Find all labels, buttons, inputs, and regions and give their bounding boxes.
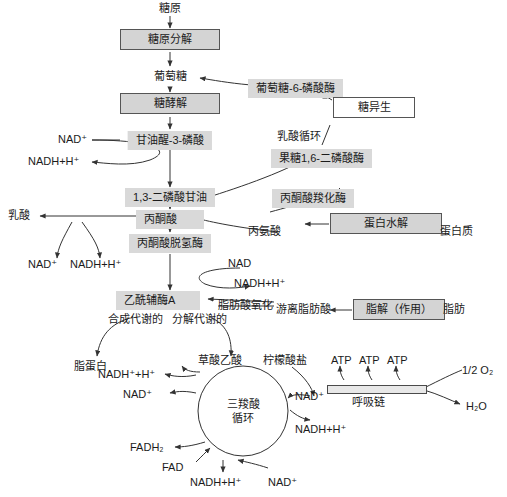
node-glycolysis[interactable]: 糖酵解: [120, 93, 220, 114]
node-citrate: 柠檬酸盐: [263, 354, 307, 367]
cofactor-nad-plus-tca-right: NAD⁺: [295, 390, 324, 403]
tca-cycle-line1: 三羧酸: [227, 397, 260, 411]
node-water: H₂O: [466, 400, 487, 413]
cofactor-nadh-lactate: NADH+H⁺: [70, 258, 121, 271]
label-catabolic: 分解代谢的: [172, 313, 227, 326]
cofactor-nadh-tca-left: NADH⁺+H⁺: [98, 368, 155, 381]
node-glucose-6-phosphatase: 葡萄糖-6-磷酸酶: [248, 79, 343, 98]
node-alanine: 丙氨酸: [248, 225, 281, 238]
node-lipolysis[interactable]: 脂解（作用）: [353, 299, 445, 320]
node-tca-cycle: 三羧酸 循环: [227, 397, 260, 425]
node-bisphosphoglycerate: 1,3-二磷酸甘油: [125, 188, 215, 207]
node-pyruvate-dehydrogenase: 丙酮酸脱氢酶: [129, 234, 211, 253]
atp-3: ATP: [387, 354, 408, 367]
cofactor-nad-pdh: NAD: [228, 257, 251, 270]
node-oxaloacetate: 草酸乙酸: [198, 354, 242, 367]
node-half-oxygen: 1/2 O₂: [462, 364, 493, 377]
cofactor-nadh-glycolysis: NADH+H⁺: [28, 155, 79, 168]
cofactor-fad: FAD: [162, 461, 183, 474]
node-glycogenolysis[interactable]: 糖原分解: [120, 29, 220, 50]
node-pyruvate-carboxylase: 丙酮酸羧化酶: [272, 189, 354, 208]
atp-2: ATP: [359, 354, 380, 367]
cofactor-nadh-tca-right: NADH+H⁺: [295, 423, 346, 436]
cofactor-nad-plus-glycolysis: NAD⁺: [58, 133, 87, 146]
cofactor-nadh-tca-bottom: NADH+H⁺: [190, 476, 241, 489]
node-proteolysis[interactable]: 蛋白水解: [330, 213, 442, 234]
node-fatty-acid-oxidation: 脂肪酸氧化: [218, 299, 273, 312]
node-fructose-1-6-bisphosphatase: 果糖1,6-二磷酸酶: [271, 149, 372, 168]
node-fat: 脂肪: [443, 303, 465, 316]
node-free-fatty-acid: 游离脂肪酸: [276, 303, 331, 316]
node-lactate: 乳酸: [8, 209, 30, 222]
atp-1: ATP: [331, 354, 352, 367]
node-gluconeogenesis[interactable]: 糖异生: [333, 97, 415, 118]
node-acetyl-coa: 乙酰辅酶A: [116, 291, 200, 310]
cofactor-nad-plus-tca-left: NAD⁺: [123, 388, 152, 401]
node-pyruvate: 丙酮酸: [136, 210, 204, 229]
metabolic-pathway-diagram: 糖原 糖原分解 葡萄糖 糖酵解 甘油醒-3-磷酸 1,3-二磷酸甘油 丙酮酸 丙…: [0, 0, 507, 497]
cofactor-fadh2: FADH₂: [130, 441, 164, 454]
cofactor-nad-plus-lactate: NAD⁺: [28, 258, 57, 271]
node-glyceraldehyde-3-phosphate: 甘油醒-3-磷酸: [128, 131, 212, 150]
node-protein: 蛋白质: [440, 225, 473, 238]
node-glucose: 葡萄糖: [154, 70, 187, 83]
node-respiratory-chain: 呼吸链: [352, 396, 385, 409]
cofactor-nadh-pdh: NADH+H⁺: [234, 277, 285, 290]
node-cori-cycle: 乳酸循环: [277, 130, 321, 143]
respiratory-chain-bar: [327, 385, 427, 394]
node-glycogen: 糖原: [159, 2, 181, 15]
tca-cycle-line2: 循环: [227, 411, 260, 425]
cofactor-nad-plus-tca-bottom: NAD⁺: [268, 476, 297, 489]
label-anabolic: 合成代谢的: [108, 313, 163, 326]
